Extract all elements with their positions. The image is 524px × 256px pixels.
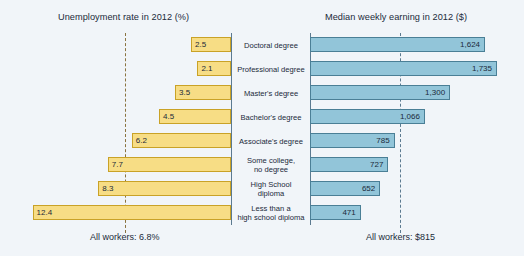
earnings-bar: 652 <box>310 181 380 196</box>
unemployment-value-label: 4.5 <box>160 112 174 121</box>
chart-row: 8.3High Schooldiploma652 <box>0 177 524 201</box>
category-label: Less than ahigh school diploma <box>233 201 309 225</box>
unemployment-value-label: 12.4 <box>34 208 53 217</box>
unemployment-value-label: 3.5 <box>176 88 190 97</box>
chart-row: 2.1Professional degree1,735 <box>0 57 524 81</box>
earnings-value-label: 1,735 <box>472 64 496 73</box>
chart-row: 7.7Some college,no degree727 <box>0 153 524 177</box>
unemployment-bar: 6.2 <box>132 133 231 148</box>
category-label: Master's degree <box>233 81 309 105</box>
unemployment-value-label: 7.7 <box>109 160 123 169</box>
unemployment-value-label: 2.5 <box>192 40 206 49</box>
unemployment-bar: 7.7 <box>108 157 231 172</box>
unemployment-bar: 2.1 <box>197 61 231 76</box>
earnings-value-label: 471 <box>342 208 359 217</box>
earnings-bar: 727 <box>310 157 388 172</box>
chart-row: 4.5Bachelor's degree1,066 <box>0 105 524 129</box>
earnings-value-label: 785 <box>376 136 393 145</box>
earnings-value-label: 652 <box>362 184 379 193</box>
unemployment-bar: 8.3 <box>98 181 231 196</box>
earnings-bar: 1,066 <box>310 109 425 124</box>
left-panel-title: Unemployment rate in 2012 (%) <box>58 12 189 22</box>
earnings-bar: 471 <box>310 205 361 220</box>
chart-row: 6.2Associate's degree785 <box>0 129 524 153</box>
category-label: Bachelor's degree <box>233 105 309 129</box>
unemployment-bar: 4.5 <box>159 109 231 124</box>
earnings-value-label: 1,300 <box>425 88 449 97</box>
category-label: Associate's degree <box>233 129 309 153</box>
category-label: High Schooldiploma <box>233 177 309 201</box>
unemployment-bar: 2.5 <box>191 37 231 52</box>
earnings-bar: 1,735 <box>310 61 497 76</box>
right-panel-title: Median weekly earning in 2012 ($) <box>325 12 467 22</box>
earnings-value-label: 1,624 <box>460 40 484 49</box>
chart-row: 12.4Less than ahigh school diploma471 <box>0 201 524 225</box>
earnings-value-label: 1,066 <box>400 112 424 121</box>
chart-row: 3.5Master's degree1,300 <box>0 81 524 105</box>
earnings-bar: 1,300 <box>310 85 450 100</box>
category-label: Professional degree <box>233 57 309 81</box>
left-all-workers-note: All workers: 6.8% <box>90 232 160 242</box>
right-all-workers-note: All workers: $815 <box>366 232 435 242</box>
unemployment-bar: 3.5 <box>175 85 231 100</box>
category-label: Doctoral degree <box>233 33 309 57</box>
chart-rows: 2.5Doctoral degree1,6242.1Professional d… <box>0 33 524 225</box>
unemployment-bar: 12.4 <box>33 205 231 220</box>
dual-bar-chart: Unemployment rate in 2012 (%) Median wee… <box>0 0 524 256</box>
earnings-value-label: 727 <box>370 160 387 169</box>
chart-row: 2.5Doctoral degree1,624 <box>0 33 524 57</box>
unemployment-value-label: 2.1 <box>198 64 212 73</box>
unemployment-value-label: 8.3 <box>99 184 113 193</box>
unemployment-value-label: 6.2 <box>133 136 147 145</box>
earnings-bar: 1,624 <box>310 37 485 52</box>
category-label: Some college,no degree <box>233 153 309 177</box>
earnings-bar: 785 <box>310 133 395 148</box>
